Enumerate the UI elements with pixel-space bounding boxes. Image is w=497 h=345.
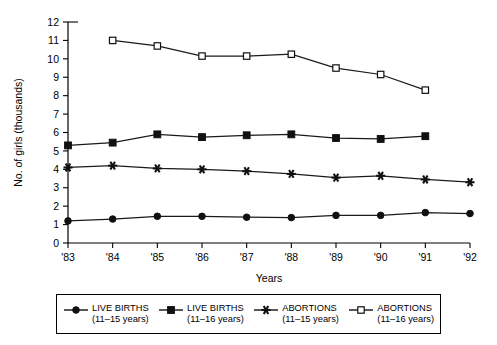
line-chart-plot: 0123456789101112'83'84'85'86'87'88'89'90… [0, 0, 497, 292]
data-point [422, 133, 429, 140]
series-3-asterisk [64, 162, 475, 186]
legend-item-label: LIVE BIRTHS [187, 303, 244, 313]
data-point [377, 71, 383, 77]
y-axis-tick-label: 2 [53, 200, 59, 212]
y-axis-tick-label: 9 [53, 71, 59, 83]
data-point [377, 136, 384, 143]
data-point [108, 162, 117, 170]
data-point [199, 53, 205, 59]
data-point [333, 212, 340, 219]
legend-item-text: ABORTIONS(11–15 years) [282, 303, 339, 326]
x-axis-tick-label: '87 [240, 251, 254, 263]
open-square-legend-icon [348, 304, 374, 316]
legend-marker [73, 306, 80, 313]
data-point [288, 131, 295, 138]
legend-item-3[interactable]: ABORTIONS(11–15 years) [253, 303, 339, 326]
data-point [154, 131, 161, 138]
x-axis-tick-label: '83 [61, 251, 75, 263]
data-point [65, 218, 72, 225]
legend-item-sublabel: (11–16 years) [377, 314, 434, 326]
y-axis-tick-label: 11 [48, 34, 59, 46]
data-point [288, 214, 295, 221]
x-axis-tick-label: '92 [463, 251, 477, 263]
x-axis-tick-label: '90 [374, 251, 388, 263]
y-axis-tick-label: 7 [53, 108, 59, 120]
chart-legend: LIVE BIRTHS(11–15 years)LIVE BIRTHS(11–1… [56, 294, 441, 334]
data-point [199, 134, 206, 141]
y-axis-tick-label: 4 [53, 163, 59, 175]
legend-item-4[interactable]: ABORTIONS(11–16 years) [348, 303, 434, 326]
series-line [68, 213, 470, 221]
data-point [243, 132, 250, 139]
legend-marker [262, 306, 271, 314]
y-axis-tick-label: 6 [53, 126, 59, 138]
data-point [243, 214, 250, 221]
series-1-filled-circle [65, 209, 474, 224]
asterisk-legend-icon [253, 304, 279, 316]
data-point [377, 212, 384, 219]
y-axis-tick-label: 0 [53, 237, 59, 249]
data-point [154, 43, 160, 49]
legend-marker [168, 306, 175, 313]
x-axis-tick-label: '91 [418, 251, 432, 263]
y-axis-tick-label: 5 [53, 145, 59, 157]
series-line [68, 166, 470, 183]
x-axis-tick-label: '86 [195, 251, 209, 263]
legend-item-text: LIVE BIRTHS(11–16 years) [187, 303, 244, 326]
y-axis-tick-label: 10 [47, 53, 59, 65]
data-point [242, 167, 251, 175]
filled-square-legend-icon [158, 304, 184, 316]
data-point [109, 139, 116, 146]
x-axis-title: Years [256, 272, 282, 284]
legend-item-label: LIVE BIRTHS [92, 303, 149, 313]
data-point [333, 135, 340, 142]
data-point [154, 213, 161, 220]
data-point [288, 51, 294, 57]
legend-item-sublabel: (11–15 years) [282, 314, 339, 326]
data-point [422, 87, 428, 93]
y-axis-title: No. of girls (thousands) [12, 78, 24, 187]
chart-figure: 0123456789101112'83'84'85'86'87'88'89'90… [0, 0, 497, 345]
legend-item-label: ABORTIONS [377, 303, 432, 313]
data-point [376, 172, 385, 180]
data-point [421, 176, 430, 184]
data-point [65, 142, 72, 149]
data-point [332, 174, 341, 182]
x-axis-tick-label: '85 [150, 251, 164, 263]
legend-marker [358, 306, 364, 312]
x-axis-tick-label: '84 [106, 251, 120, 263]
y-axis-tick-label: 12 [47, 16, 59, 28]
y-axis-tick-label: 1 [53, 218, 59, 230]
data-point [422, 209, 429, 216]
legend-item-label: ABORTIONS [282, 303, 337, 313]
legend-item-2[interactable]: LIVE BIRTHS(11–16 years) [158, 303, 244, 326]
legend-item-sublabel: (11–15 years) [92, 314, 149, 326]
x-axis-tick-label: '89 [329, 251, 343, 263]
data-point [243, 53, 249, 59]
data-point [466, 178, 475, 186]
filled-circle-legend-icon [63, 304, 89, 316]
data-point [109, 37, 115, 43]
legend-item-text: ABORTIONS(11–16 years) [377, 303, 434, 326]
legend-item-1[interactable]: LIVE BIRTHS(11–15 years) [63, 303, 149, 326]
legend-item-sublabel: (11–16 years) [187, 314, 244, 326]
data-point [198, 165, 207, 173]
x-axis-tick-label: '88 [284, 251, 298, 263]
data-point [199, 213, 206, 220]
data-point [333, 65, 339, 71]
series-2-filled-square [65, 131, 429, 149]
series-4-open-square [109, 37, 428, 93]
legend-item-text: LIVE BIRTHS(11–15 years) [92, 303, 149, 326]
y-axis-tick-label: 8 [53, 89, 59, 101]
data-point [153, 165, 162, 173]
data-point [287, 170, 296, 178]
data-point [109, 216, 116, 223]
y-axis-tick-label: 3 [53, 181, 59, 193]
data-point [467, 210, 474, 217]
